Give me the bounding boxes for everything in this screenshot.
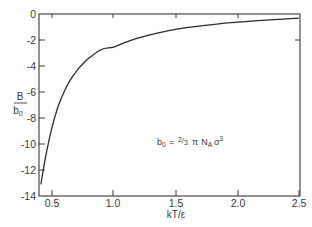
b-over-b0-curve [41, 18, 299, 184]
x-tick-0-5: 0.5 [45, 197, 60, 209]
y-tick-neg10: -10 [21, 138, 36, 150]
x-tick-1-5: 1.5 [169, 197, 184, 209]
y-tick-neg4: -4 [27, 60, 36, 72]
plot-frame [39, 14, 300, 196]
y-axis-ticks [39, 40, 300, 170]
x-tick-1-0: 1.0 [106, 197, 121, 209]
x-tick-2-5: 2.5 [292, 197, 307, 209]
y-tick-neg12: -12 [21, 164, 36, 176]
y-tick-0: 0 [30, 8, 36, 20]
x-axis-ticks [52, 14, 299, 196]
y-tick-neg2: -2 [27, 34, 36, 46]
y-axis-title: B b0 [13, 91, 27, 117]
y-tick-neg14: -14 [21, 190, 36, 202]
y-tick-neg8: -8 [27, 112, 36, 124]
virial-coefficient-chart: 0 -2 -4 -6 -8 -10 -12 -14 0.5 1.0 1.5 2.… [0, 0, 312, 227]
y-axis-tick-labels: 0 -2 -4 -6 -8 -10 -12 -14 [21, 8, 36, 202]
y-axis-title-numerator: B [17, 91, 24, 102]
b0-definition-annotation: b0=2/3πNAσ3 [157, 135, 224, 148]
x-axis-tick-labels: 0.5 1.0 1.5 2.0 2.5 [45, 197, 307, 209]
x-tick-2-0: 2.0 [231, 197, 246, 209]
y-tick-neg6: -6 [27, 86, 36, 98]
x-axis-title: kT/ε [167, 209, 186, 220]
y-axis-title-denominator: b0 [13, 105, 23, 117]
